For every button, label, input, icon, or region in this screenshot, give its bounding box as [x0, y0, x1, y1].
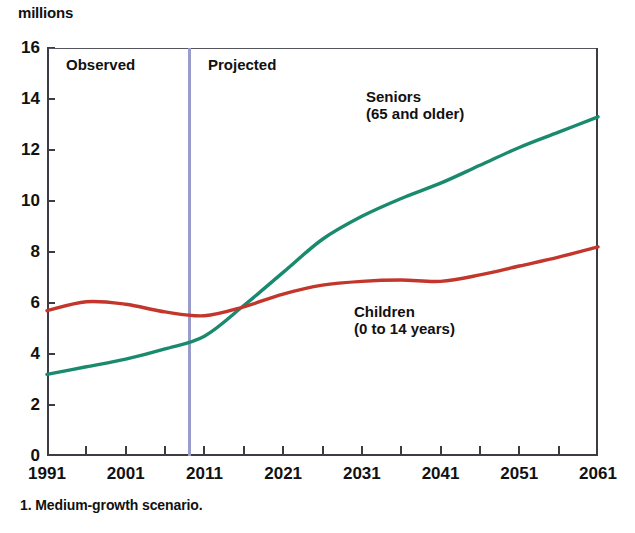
x-axis-tick-mark — [361, 446, 363, 455]
annotation-seniors-line2: (65 and older) — [366, 105, 464, 122]
y-axis-tick-label: 10 — [21, 192, 40, 209]
y-axis-tick-label: 4 — [31, 345, 40, 362]
x-axis-tick-label: 1991 — [28, 465, 66, 482]
y-axis-unit-label: millions — [18, 4, 73, 21]
y-axis-tick-label: 16 — [21, 39, 40, 56]
y-axis-tick-label: 8 — [31, 243, 40, 260]
x-axis-tick-mark — [440, 446, 442, 455]
x-axis-tick-label: 2061 — [579, 465, 617, 482]
x-axis-tick-label: 2041 — [422, 465, 460, 482]
series-plot — [47, 48, 598, 456]
x-axis-tick-label: 2031 — [343, 465, 381, 482]
annotation-seniors: Seniors (65 and older) — [366, 88, 464, 123]
x-axis-tick-mark — [85, 446, 87, 455]
x-axis-tick-mark — [164, 446, 166, 455]
x-axis-tick-mark — [558, 446, 560, 455]
y-axis-tick-label: 0 — [31, 447, 40, 464]
annotation-children-line1: Children — [354, 303, 455, 320]
annotation-projected: Projected — [208, 56, 276, 73]
plot-area: Observed Projected Seniors (65 and older… — [47, 48, 598, 456]
chart-footnote: 1. Medium-growth scenario. — [20, 497, 203, 513]
y-axis-tick-label: 2 — [31, 396, 40, 413]
seniors-line — [47, 117, 598, 375]
annotation-children-line2: (0 to 14 years) — [354, 320, 455, 337]
x-axis-tick-mark — [479, 446, 481, 455]
x-axis-tick-mark — [518, 446, 520, 455]
x-axis-tick-label: 2051 — [500, 465, 538, 482]
x-axis-tick-label: 2001 — [107, 465, 145, 482]
population-line-chart: millions 0246810121416 Observed Projecte… — [0, 0, 635, 533]
x-axis-tick-mark — [400, 446, 402, 455]
x-axis-tick-mark — [282, 446, 284, 455]
y-axis-tick-label: 12 — [21, 141, 40, 158]
y-axis-tick-label: 14 — [21, 90, 40, 107]
x-axis-tick-mark — [322, 446, 324, 455]
x-axis-tick-mark — [243, 446, 245, 455]
children-line — [47, 247, 598, 316]
annotation-children: Children (0 to 14 years) — [354, 303, 455, 338]
annotation-seniors-line1: Seniors — [366, 88, 464, 105]
y-axis-tick-label: 6 — [31, 294, 40, 311]
x-axis-tick-label: 2021 — [264, 465, 302, 482]
annotation-observed: Observed — [66, 56, 135, 73]
x-axis-tick-label: 2011 — [186, 465, 223, 482]
x-axis-tick-mark — [203, 446, 205, 455]
x-axis-tick-mark — [125, 446, 127, 455]
